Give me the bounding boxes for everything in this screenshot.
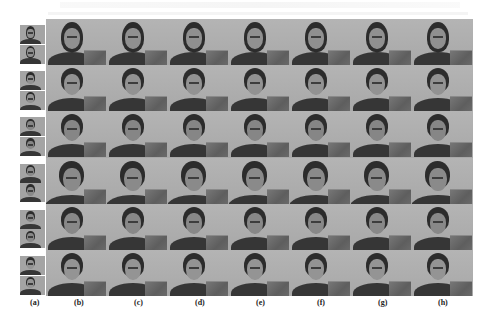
shoulders [20, 151, 40, 156]
label-b: (b) [74, 298, 84, 307]
eyes [127, 177, 138, 179]
face [186, 28, 202, 49]
eyes [128, 221, 138, 223]
eyes [28, 263, 32, 265]
eyes [433, 36, 443, 38]
face [186, 259, 202, 280]
bleed-through-text [60, 2, 460, 8]
face-image-cell [46, 111, 107, 157]
face-image-cell [412, 250, 473, 296]
face [64, 120, 80, 141]
eyes [188, 177, 199, 179]
face-image-cell [46, 65, 107, 111]
input-thumbnail [20, 229, 45, 248]
face [125, 74, 141, 95]
eyes [249, 177, 260, 179]
face [125, 28, 141, 49]
zoom-inset [84, 96, 106, 111]
face [430, 120, 446, 141]
zoom-inset [267, 142, 289, 157]
face-image-cell [46, 158, 107, 204]
face [186, 74, 202, 95]
face-image-cell [290, 250, 351, 296]
input-thumbnail [20, 276, 45, 295]
face [308, 28, 324, 49]
zoom-inset [328, 142, 350, 157]
face [186, 120, 202, 141]
label-a: (a) [30, 298, 39, 307]
zoom-inset [206, 142, 228, 157]
zoom-inset [206, 281, 228, 296]
eyes [372, 221, 382, 223]
face-image-cell [168, 19, 229, 65]
input-thumbnail [20, 183, 45, 202]
face [63, 168, 81, 192]
zoom-inset [389, 235, 411, 250]
label-d: (d) [195, 298, 205, 307]
zoom-inset [84, 189, 106, 204]
eyes [311, 82, 321, 84]
eyes [67, 82, 77, 84]
eyes [189, 221, 199, 223]
zoom-inset [328, 281, 350, 296]
eyes [189, 36, 199, 38]
face [125, 213, 141, 234]
face [307, 168, 325, 192]
face [308, 213, 324, 234]
eyes [311, 267, 321, 269]
eyes [67, 221, 77, 223]
zoom-inset [84, 281, 106, 296]
face [308, 259, 324, 280]
label-g: (g) [378, 298, 387, 307]
eyes [128, 36, 138, 38]
face [64, 74, 80, 95]
input-thumbnail [20, 91, 45, 110]
input-thumbnail [20, 71, 45, 90]
face [430, 213, 446, 234]
zoom-inset [450, 235, 472, 250]
zoom-inset [389, 142, 411, 157]
zoom-inset [389, 189, 411, 204]
eyes [311, 36, 321, 38]
face [247, 259, 263, 280]
eyes [433, 128, 443, 130]
eyes [189, 82, 199, 84]
eyes [28, 52, 32, 54]
face-image-cell [46, 19, 107, 65]
face [64, 213, 80, 234]
zoom-inset [450, 281, 472, 296]
eyes [128, 267, 138, 269]
face-image-cell [229, 250, 290, 296]
face-image-cell [107, 65, 168, 111]
input-thumbnail [20, 164, 45, 183]
results-grid [46, 19, 473, 296]
label-f: (f) [317, 298, 325, 307]
zoom-inset [450, 50, 472, 65]
eyes [250, 221, 260, 223]
face [186, 213, 202, 234]
face-image-cell [229, 19, 290, 65]
face [429, 168, 447, 192]
zoom-inset [328, 50, 350, 65]
face-image-cell [412, 158, 473, 204]
zoom-inset [328, 189, 350, 204]
eyes [28, 98, 32, 100]
eyes [372, 82, 382, 84]
eyes [67, 128, 77, 130]
eyes [371, 177, 382, 179]
eyes [66, 177, 77, 179]
face [308, 120, 324, 141]
face [124, 168, 142, 192]
zoom-inset [206, 96, 228, 111]
shoulders [20, 85, 40, 90]
face [247, 28, 263, 49]
face [308, 74, 324, 95]
face-image-cell [168, 65, 229, 111]
face [369, 120, 385, 141]
face-image-cell [107, 19, 168, 65]
eyes [67, 36, 77, 38]
input-thumbnail [20, 256, 45, 275]
face-image-cell [290, 65, 351, 111]
face-image-cell [46, 204, 107, 250]
face-image-cell [290, 19, 351, 65]
